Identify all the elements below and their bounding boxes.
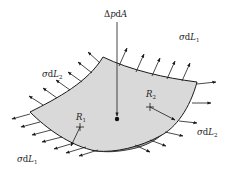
pressure-label: ΔpdA (104, 9, 127, 19)
sigma-dl1-top-label: σdL1 (179, 32, 199, 43)
sigma-dl1-bottom-label: σdL1 (17, 154, 37, 165)
membrane-diagram: ΔpdA σdL1 σdL2 σdL2 σdL1 R1 R2 (0, 0, 229, 174)
sigma-dl2-right-label: σdL2 (197, 127, 217, 138)
sigma-dl2-left-label: σdL2 (42, 69, 62, 80)
pressure-point (115, 117, 119, 121)
